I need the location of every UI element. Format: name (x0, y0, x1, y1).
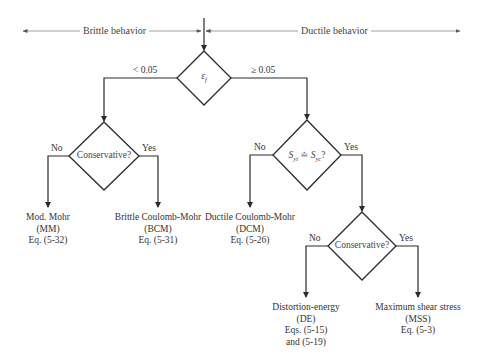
strength-no-label: No (254, 142, 266, 153)
brittle-behavior-label: Brittle behavior (80, 25, 149, 37)
brittle-conservative-question: Conservative? (74, 150, 134, 160)
brittle-no-label: No (51, 143, 63, 154)
outcome-ductile-coulomb-mohr: Ductile Coulomb-Mohr (DCM) Eq. (5-26) (200, 212, 300, 247)
branch-yes-ductile (341, 155, 362, 211)
branch-label-ge: ≥ 0.05 (251, 65, 275, 76)
outcome-distortion-energy: Distortion-energy (DE) Eqs. (5-15) and (… (261, 302, 351, 348)
branch-dcm (250, 155, 273, 207)
branch-bcm (139, 156, 158, 207)
branch-label-lt: < 0.05 (133, 65, 157, 76)
branch-mss (396, 246, 418, 297)
ductile-yes-label: Yes (399, 233, 413, 244)
outcome-brittle-coulomb-mohr: Brittle Coulomb-Mohr (BCM) Eq. (5-31) (108, 212, 208, 247)
branch-mm (48, 156, 69, 207)
outcome-maximum-shear-stress: Maximum shear stress (MSS) Eq. (5-3) (368, 302, 468, 337)
strength-yes-label: Yes (344, 142, 358, 153)
branch-ductile (231, 78, 307, 119)
brittle-yes-label: Yes (142, 143, 156, 154)
branch-de (306, 246, 328, 297)
ductile-behavior-label: Ductile behavior (298, 25, 371, 37)
strength-equal-question: Syt ≐ Syc? (282, 149, 332, 162)
ductile-no-label: No (309, 233, 321, 244)
strain-symbol: εf (194, 71, 214, 84)
outcome-mod-mohr: Mod. Mohr (MM) Eq. (5-32) (8, 212, 88, 247)
branch-brittle (104, 78, 177, 121)
ductile-conservative-question: Conservative? (332, 240, 392, 250)
